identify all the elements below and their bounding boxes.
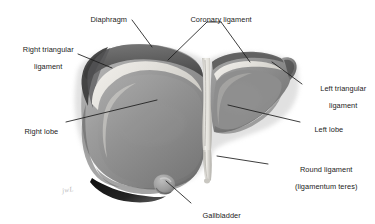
- label-coronary-ligament: Coronary ligament: [182, 7, 278, 33]
- label-right-lobe: Right lobe: [16, 119, 78, 145]
- label-right-triangular-ligament: Right triangular ligament: [2, 37, 86, 80]
- label-round-ligament: Round ligament (ligamentum teres): [270, 157, 374, 200]
- leader-round-ligament: [217, 156, 268, 164]
- label-round-ligament-line2: (ligamentum teres): [295, 182, 358, 191]
- label-left-triangular-ligament: Left triangular ligament: [303, 76, 375, 119]
- texture-blotch-2: [218, 82, 262, 114]
- round-ligament-tip: [204, 179, 210, 184]
- label-round-ligament-line1: Round ligament: [300, 165, 352, 174]
- label-right-lobe-line1: Right lobe: [24, 127, 58, 136]
- label-right-triangular-ligament-line1: Right triangular: [23, 45, 74, 54]
- liver-anatomy-figure: Diaphragm Right triangular ligament Coro…: [0, 0, 375, 224]
- label-gallbladder: Gallbladder: [194, 203, 256, 224]
- label-left-lobe-line1: Left lobe: [314, 125, 343, 134]
- liver-body: [75, 44, 299, 202]
- label-left-triangular-ligament-line2: ligament: [329, 101, 357, 110]
- round-ligament-cord: [203, 150, 212, 182]
- texture-blotch-1: [114, 102, 186, 146]
- label-gallbladder-line1: Gallbladder: [202, 211, 240, 220]
- label-diaphragm-line1: Diaphragm: [90, 15, 127, 24]
- label-left-triangular-ligament-line1: Left triangular: [320, 84, 366, 93]
- label-diaphragm: Diaphragm: [82, 7, 144, 33]
- label-right-triangular-ligament-line2: ligament: [34, 62, 62, 71]
- label-coronary-ligament-line1: Coronary ligament: [190, 15, 251, 24]
- label-left-lobe: Left lobe: [306, 117, 372, 143]
